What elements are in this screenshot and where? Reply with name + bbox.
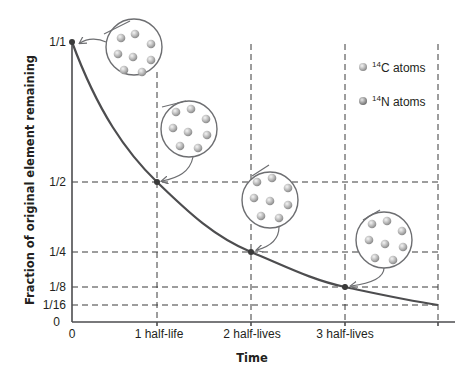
x-tick-1-half-life: 1 half-life xyxy=(135,327,184,341)
legend-c14-label: C atoms xyxy=(381,61,426,75)
y-tick-labels: 1/1 1/2 1/4 1/8 1/16 0 xyxy=(43,35,67,329)
sample-circle-2 xyxy=(242,165,298,250)
legend: 14C atoms 14N atoms xyxy=(359,60,426,109)
y-axis-title: Fraction of original element remaining xyxy=(23,55,37,305)
x-tick-3-half-lives: 3 half-lives xyxy=(316,327,373,341)
x-tick-labels: 0 1 half-life 2 half-lives 3 half-lives xyxy=(69,327,374,341)
legend-n14-label: N atoms xyxy=(381,95,426,109)
x-tick-2-half-lives: 2 half-lives xyxy=(223,327,280,341)
x-tick-0: 0 xyxy=(69,327,76,341)
data-point-0 xyxy=(69,39,75,45)
y-tick-1-8: 1/8 xyxy=(49,280,66,294)
data-point-3 xyxy=(342,284,348,290)
svg-text:14C atoms: 14C atoms xyxy=(372,60,426,75)
sample-circle-1 xyxy=(161,101,217,181)
y-tick-1-2: 1/2 xyxy=(49,175,66,189)
x-axis-title: Time xyxy=(236,351,268,365)
y-tick-1-16: 1/16 xyxy=(43,298,67,312)
data-point-2 xyxy=(248,249,254,255)
data-point-1 xyxy=(154,179,160,185)
y-tick-0: 0 xyxy=(53,315,60,329)
legend-item-c14: 14C atoms xyxy=(359,60,426,75)
sample-circle-0 xyxy=(80,19,162,76)
y-tick-1-4: 1/4 xyxy=(49,245,66,259)
y-tick-1-1: 1/1 xyxy=(49,35,66,49)
half-life-chart: 1/1 1/2 1/4 1/8 1/16 0 0 1 half-life 2 h… xyxy=(0,0,475,381)
svg-text:14N atoms: 14N atoms xyxy=(372,94,426,109)
c14-atom-icon xyxy=(359,63,367,71)
legend-item-n14: 14N atoms xyxy=(359,94,426,109)
n14-atom-icon xyxy=(359,97,367,105)
sample-circle-3 xyxy=(351,210,412,286)
